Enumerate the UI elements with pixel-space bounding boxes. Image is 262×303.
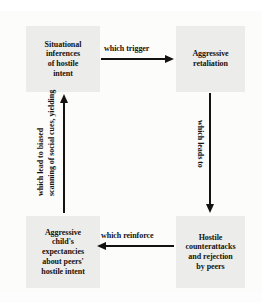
node-line: intent [45, 69, 82, 79]
node-line: and rejection [186, 252, 236, 262]
node-line: about peers' [41, 257, 85, 267]
leads-to-arrow-shaft [209, 93, 211, 205]
edge-label-which-lead-to-biased: which lead to biased [36, 128, 45, 196]
hostile-counterattacks-node[interactable]: Hostile counterattacks and rejection by … [176, 216, 245, 288]
situational-inferences-node[interactable]: Situational inferences of hostile intent [26, 26, 100, 92]
edge-label-scanning-of-social-cues-yielding: scanning of social cues, yielding [47, 90, 56, 196]
node-line: inferences [45, 49, 82, 59]
node-line: Aggressive [41, 228, 85, 238]
node-line: hostile intent [41, 267, 85, 277]
trigger-arrow-shaft [101, 58, 167, 60]
scan-margin-bottom [0, 293, 262, 303]
node-line: counterattacks [186, 242, 236, 252]
reinforce-arrowhead-left-icon [97, 242, 106, 250]
node-line: by peers [186, 262, 236, 272]
node-line: of hostile [45, 59, 82, 69]
aggressive-child-expectancies-node-text: Aggressive child's expectancies about pe… [41, 228, 85, 277]
scan-margin-top [0, 0, 262, 11]
node-line: retaliation [192, 59, 228, 69]
edge-label-which-leads-to: which leads to [196, 120, 205, 168]
node-line: Hostile [186, 233, 236, 243]
aggressive-retaliation-node[interactable]: Aggressive retaliation [176, 26, 245, 92]
node-line: Situational [45, 40, 82, 50]
hostile-counterattacks-node-text: Hostile counterattacks and rejection by … [186, 233, 236, 272]
aggressive-retaliation-node-text: Aggressive retaliation [192, 49, 228, 69]
diagram-canvas: Situational inferences of hostile intent… [0, 0, 262, 303]
situational-inferences-node-text: Situational inferences of hostile intent [45, 40, 82, 79]
leads-to-arrowhead-down-icon [206, 204, 214, 213]
aggressive-child-expectancies-node[interactable]: Aggressive child's expectancies about pe… [26, 216, 100, 288]
node-line: child's [41, 237, 85, 247]
scanning-arrowhead-up-icon [60, 94, 68, 103]
node-line: Aggressive [192, 49, 228, 59]
trigger-arrowhead-right-icon [165, 55, 174, 63]
edge-label-which-trigger: which trigger [104, 44, 149, 53]
scanning-arrow-shaft [63, 103, 65, 213]
node-line: expectancies [41, 247, 85, 257]
edge-label-which-reinforce: which reinforce [101, 231, 154, 240]
reinforce-arrow-shaft [106, 245, 174, 247]
